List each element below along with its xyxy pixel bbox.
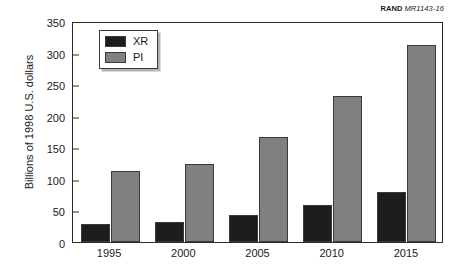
source-organization: RAND xyxy=(380,4,402,13)
source-document-id: MR1143-16 xyxy=(404,4,444,13)
legend-item-xr: XR xyxy=(105,35,148,48)
y-axis-tick-label: 200 xyxy=(47,112,65,124)
bar-xr-2015 xyxy=(377,192,406,242)
bar-pi-2005 xyxy=(259,137,288,242)
x-axis-label: 2015 xyxy=(394,247,418,259)
bar-group xyxy=(229,23,288,242)
bar-pi-2015 xyxy=(407,45,436,242)
bar-chart-figure: RANDMR1143-16 Billions of 1998 U.S. doll… xyxy=(0,0,466,279)
bar-pi-2010 xyxy=(333,96,362,242)
bar-pi-2000 xyxy=(185,164,214,242)
bar-xr-2010 xyxy=(303,205,332,242)
y-axis-tick-label: 100 xyxy=(47,175,65,187)
bar-xr-2000 xyxy=(155,222,184,242)
y-axis-tick-label: 150 xyxy=(47,143,65,155)
bar-pi-1995 xyxy=(111,171,140,242)
x-axis-label: 2010 xyxy=(319,247,343,259)
y-axis-tick-label: 50 xyxy=(53,206,65,218)
legend-swatch-pi xyxy=(105,52,126,63)
y-axis-tick-label: 250 xyxy=(47,80,65,92)
y-axis-tick-label: 350 xyxy=(47,17,65,29)
bar-group xyxy=(155,23,214,242)
bar-xr-1995 xyxy=(81,224,110,242)
y-axis-title: Billions of 1998 U.S. dollars xyxy=(23,0,35,247)
y-axis-tick-label: 0 xyxy=(59,238,65,250)
legend-label: XR xyxy=(133,36,148,47)
x-axis-label: 1995 xyxy=(97,247,121,259)
bar-group xyxy=(377,23,436,242)
legend-swatch-xr xyxy=(105,36,126,47)
legend-item-pi: PI xyxy=(105,51,148,64)
source-credit: RANDMR1143-16 xyxy=(380,4,444,13)
x-axis-label: 2000 xyxy=(171,247,195,259)
x-axis-label: 2005 xyxy=(245,247,269,259)
legend-label: PI xyxy=(133,52,143,63)
bar-xr-2005 xyxy=(229,215,258,242)
y-axis-tick-label: 300 xyxy=(47,49,65,61)
bar-group xyxy=(303,23,362,242)
legend: XRPI xyxy=(99,30,158,69)
